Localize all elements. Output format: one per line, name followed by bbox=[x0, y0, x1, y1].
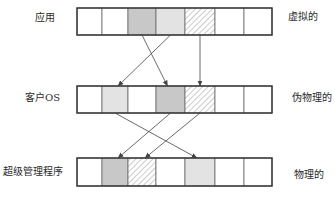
memory-page-cell-dark bbox=[102, 158, 128, 186]
mapping-arrow bbox=[118, 35, 171, 86]
memory-page-cell-dark bbox=[156, 86, 185, 113]
memory-page-cell-empty bbox=[244, 86, 272, 113]
memory-page-cell-hatched bbox=[185, 8, 215, 35]
memory-virtualization-diagram: 应用 客户OS 超级管理程序 虚拟的 伪物理的 物理的 bbox=[0, 0, 335, 199]
memory-page-cell-light bbox=[102, 86, 128, 113]
mapping-arrow bbox=[115, 113, 197, 158]
memory-page-cell-hatched bbox=[185, 86, 215, 113]
memory-page-cell-dark bbox=[128, 8, 156, 35]
memory-page-cell-light bbox=[185, 158, 215, 186]
address-type-physical: 物理的 bbox=[294, 169, 324, 181]
layer-label-hypervisor: 超级管理程序 bbox=[3, 166, 63, 178]
memory-page-cell-empty bbox=[128, 86, 156, 113]
memory-page-cell-empty bbox=[156, 158, 185, 186]
memory-layers bbox=[77, 8, 272, 186]
memory-page-cell-empty bbox=[244, 158, 272, 186]
address-type-virtual: 虚拟的 bbox=[288, 11, 318, 23]
memory-page-cell-empty bbox=[215, 8, 244, 35]
address-type-pseudo-physical: 伪物理的 bbox=[292, 92, 332, 104]
mapping-arrow bbox=[145, 113, 200, 158]
layer-bar-hypervisor bbox=[77, 158, 272, 186]
memory-page-cell-empty bbox=[215, 86, 244, 113]
layer-label-guest-os: 客户OS bbox=[25, 92, 60, 104]
memory-page-cell-empty bbox=[77, 158, 102, 186]
layer-bar-guest-os bbox=[77, 86, 272, 113]
layer-label-application: 应用 bbox=[35, 12, 55, 24]
layer-bar-application bbox=[77, 8, 272, 35]
memory-page-cell-empty bbox=[77, 86, 102, 113]
mapping-arrow bbox=[142, 35, 168, 86]
memory-page-cell-empty bbox=[244, 8, 272, 35]
mapping-arrow bbox=[118, 113, 171, 158]
memory-page-cell-hatched bbox=[128, 158, 156, 186]
memory-page-cell-empty bbox=[77, 8, 102, 35]
memory-page-cell-empty bbox=[102, 8, 128, 35]
memory-page-cell-empty bbox=[215, 158, 244, 186]
memory-page-cell-light bbox=[156, 8, 185, 35]
